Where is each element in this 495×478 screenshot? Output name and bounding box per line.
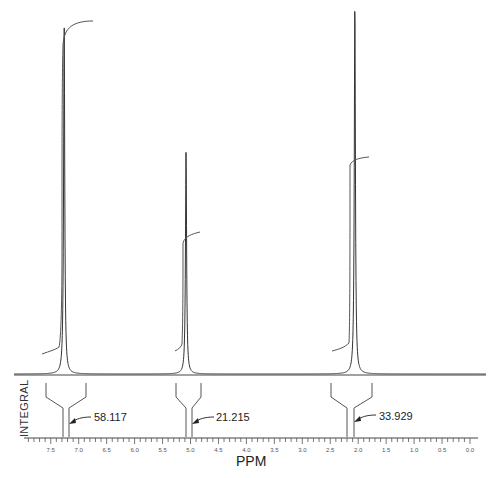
- x-tick-label: 2.0: [354, 447, 363, 453]
- integral-bracket-1: [46, 383, 86, 437]
- x-tick-label: 1.0: [410, 447, 419, 453]
- integral-curve-3: [332, 157, 369, 351]
- integral-bracket-2: [176, 383, 201, 437]
- x-tick-label: 4.5: [214, 447, 223, 453]
- x-tick-label: 0.5: [438, 447, 447, 453]
- integral-label-2: 21.215: [216, 411, 250, 423]
- x-tick-label: 1.5: [382, 447, 391, 453]
- nmr-spectrum-chart: 58.117 21.215 33.929 INTEGRAL 7.57.06.56…: [0, 0, 495, 478]
- spectrum-line: [14, 11, 486, 374]
- integral-curve-1: [42, 21, 93, 354]
- integral-axis-label: INTEGRAL: [18, 380, 30, 437]
- integral-brackets: [46, 383, 372, 437]
- integral-annotations: 58.117 21.215 33.929: [69, 410, 413, 424]
- arrowhead-3: [354, 416, 361, 422]
- x-tick-label: 3.5: [270, 447, 279, 453]
- x-tick-label: 3.0: [298, 447, 307, 453]
- integral-bracket-3: [331, 383, 372, 437]
- x-axis-ticks: [28, 438, 470, 444]
- x-tick-label: 2.5: [326, 447, 335, 453]
- x-tick-label: 6.0: [130, 447, 139, 453]
- spectrum-trace: [14, 11, 486, 374]
- arrowhead-2: [192, 418, 199, 424]
- x-tick-label: 6.5: [102, 447, 111, 453]
- integral-curves: [42, 21, 369, 354]
- x-tick-label: 7.5: [47, 447, 56, 453]
- x-tick-label: 5.5: [158, 447, 167, 453]
- arrowhead-1: [69, 418, 76, 424]
- integral-label-3: 33.929: [379, 410, 413, 422]
- integral-label-1: 58.117: [94, 411, 127, 423]
- x-tick-label: 0.0: [466, 447, 475, 453]
- x-axis-title: PPM: [236, 453, 266, 469]
- x-tick-label: 5.0: [186, 447, 195, 453]
- x-axis: 7.57.06.56.05.55.04.54.03.53.02.52.01.51…: [24, 438, 478, 453]
- x-tick-label: 7.0: [75, 447, 84, 453]
